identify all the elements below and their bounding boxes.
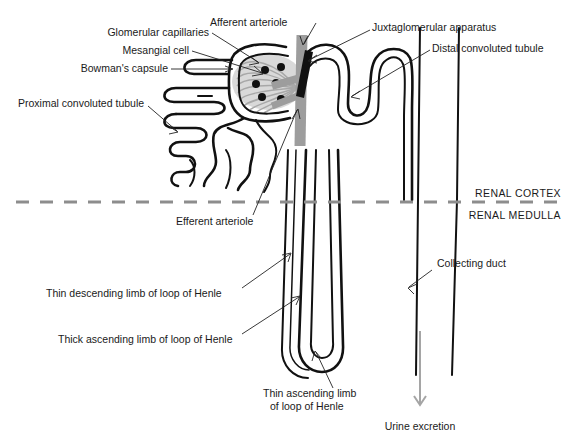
label-collecting-duct: Collecting duct: [437, 257, 506, 269]
label-thin-ascending-limb-line1: Thin ascending limb: [263, 387, 357, 399]
mesangial-cell-dot: [277, 63, 285, 71]
label-afferent-arteriole: Afferent arteriole: [210, 16, 288, 28]
leader-pct: [148, 106, 177, 131]
label-thin-descending-limb: Thin descending limb of loop of Henle: [46, 287, 222, 299]
label-urine-excretion: Urine excretion: [385, 420, 456, 432]
label-thin-ascending-limb-line2: of loop of Henle: [270, 400, 344, 412]
label-mesangial-cell: Mesangial cell: [122, 44, 189, 56]
label-efferent-arteriole: Efferent arteriole: [176, 215, 254, 227]
label-bowmans-capsule: Bowman's capsule: [81, 62, 168, 74]
label-juxtaglomerular-apparatus: Juxtaglomerular apparatus: [372, 21, 496, 33]
label-distal-convoluted-tubule: Distal convoluted tubule: [432, 42, 544, 54]
leader-glomerular-capillaries: [212, 33, 258, 62]
nephron-diagram: Afferent arteriole Glomerular capillarie…: [0, 0, 577, 447]
mesangial-cell-dot: [252, 80, 260, 88]
leader-thin-descending: [242, 254, 290, 288]
leader-collecting-duct: [409, 270, 432, 287]
label-proximal-convoluted-tubule: Proximal convoluted tubule: [18, 97, 144, 109]
label-glomerular-capillaries: Glomerular capillaries: [107, 26, 209, 38]
distal-convoluted-tubule: [308, 45, 413, 200]
label-renal-cortex: RENAL CORTEX: [475, 187, 561, 199]
arrowhead-dct: [351, 91, 360, 99]
arrowhead-collecting-duct: [408, 284, 417, 294]
label-renal-medulla: RENAL MEDULLA: [469, 209, 561, 221]
label-thick-ascending-limb: Thick ascending limb of loop of Henle: [58, 333, 233, 345]
nephron-illustration: Afferent arteriole Glomerular capillarie…: [0, 0, 577, 447]
mesangial-cell-dot: [258, 93, 266, 101]
loop-of-henle: [282, 150, 343, 378]
